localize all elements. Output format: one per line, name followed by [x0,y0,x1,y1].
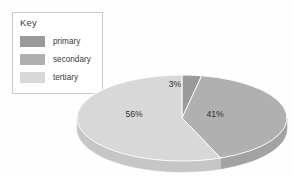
pie-chart-figure: Key primary secondary tertiary 3%41%56% [0,0,293,178]
pie-top-faces [77,75,287,161]
pie-label-tertiary: 56% [125,109,143,119]
pie-label-primary: 3% [169,79,182,89]
pie-svg: 3%41%56% [0,0,293,178]
pie-chart: 3%41%56% [0,0,293,178]
pie-label-secondary: 41% [206,109,224,119]
